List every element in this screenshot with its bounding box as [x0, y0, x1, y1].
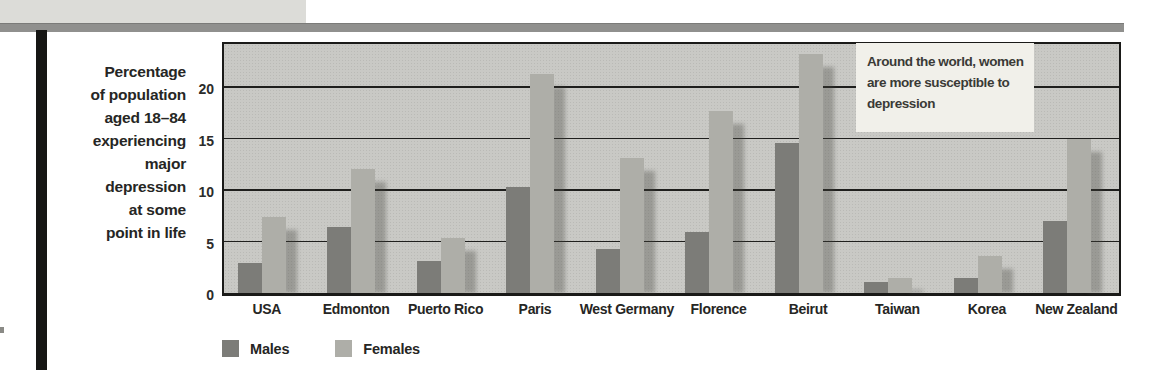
- bar-males-beirut: [775, 143, 799, 293]
- x-label-beirut: Beirut: [763, 301, 852, 317]
- bar-females-new-zealand: [1067, 139, 1091, 293]
- bar-females-puerto-rico: [441, 238, 465, 293]
- bar-males-taiwan: [864, 282, 888, 293]
- bar-females-usa: [262, 217, 286, 293]
- legend: MalesFemales: [222, 340, 420, 357]
- bar-males-korea: [954, 278, 978, 293]
- bar-females-paris: [530, 74, 554, 293]
- legend-label-males: Males: [250, 341, 289, 357]
- spine-bar: [36, 30, 47, 370]
- bar-group-florence: [672, 44, 762, 293]
- bar-females-korea: [978, 256, 1002, 293]
- bar-males-edmonton: [327, 227, 351, 293]
- annotation-box: Around the world, women are more suscept…: [856, 43, 1034, 132]
- bar-group-beirut: [761, 44, 851, 293]
- bar-males-usa: [238, 263, 262, 293]
- x-label-edmonton: Edmonton: [311, 301, 400, 317]
- bar-females-edmonton: [351, 169, 375, 294]
- x-label-new-zealand: New Zealand: [1032, 301, 1121, 317]
- legend-entry-males: Males: [222, 340, 289, 357]
- x-label-west-germany: West Germany: [580, 301, 674, 317]
- legend-label-females: Females: [363, 341, 420, 357]
- x-labels: USAEdmontonPuerto RicoParisWest GermanyF…: [222, 301, 1121, 317]
- bar-group-west-germany: [582, 44, 672, 293]
- y-tick-label-20: 20: [176, 81, 214, 97]
- x-label-florence: Florence: [674, 301, 763, 317]
- bar-females-west-germany: [620, 158, 644, 293]
- bar-group-usa: [224, 44, 314, 293]
- x-label-usa: USA: [222, 301, 311, 317]
- y-tick-label-5: 5: [176, 236, 214, 252]
- y-tick-labels: 05101520: [178, 42, 216, 296]
- bar-males-puerto-rico: [417, 261, 441, 293]
- edge-mark: [0, 327, 4, 333]
- bar-group-paris: [493, 44, 583, 293]
- bar-group-edmonton: [314, 44, 404, 293]
- y-tick-label-10: 10: [176, 184, 214, 200]
- page: Percentage of population aged 18–84 expe…: [0, 0, 1169, 385]
- x-label-paris: Paris: [490, 301, 579, 317]
- y-tick-label-15: 15: [176, 133, 214, 149]
- x-label-korea: Korea: [942, 301, 1031, 317]
- bar-males-west-germany: [596, 249, 620, 293]
- x-label-puerto-rico: Puerto Rico: [401, 301, 490, 317]
- x-label-taiwan: Taiwan: [853, 301, 942, 317]
- bar-females-florence: [709, 111, 733, 293]
- y-tick-label-0: 0: [176, 287, 214, 303]
- bar-group-new-zealand: [1030, 44, 1120, 293]
- bar-group-puerto-rico: [403, 44, 493, 293]
- corner-block: [0, 0, 306, 23]
- legend-swatch-males: [222, 340, 239, 357]
- top-rule: [0, 23, 1124, 32]
- bar-females-taiwan: [888, 278, 912, 293]
- bar-females-beirut: [799, 54, 823, 293]
- legend-entry-females: Females: [335, 340, 420, 357]
- legend-swatch-females: [335, 340, 352, 357]
- bar-males-new-zealand: [1043, 221, 1067, 293]
- bar-males-florence: [685, 232, 709, 293]
- bar-males-paris: [506, 187, 530, 293]
- y-axis-title: Percentage of population aged 18–84 expe…: [58, 60, 186, 244]
